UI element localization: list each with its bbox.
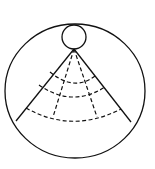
right-dashed-ray <box>74 49 97 117</box>
right-solid-ray <box>74 49 131 122</box>
dashed-arc-1 <box>50 72 95 83</box>
solid-boundary-rays <box>16 49 131 122</box>
dashed-arcs <box>26 72 121 121</box>
dashed-arc-3 <box>26 108 121 121</box>
left-dashed-ray <box>53 49 74 117</box>
outer-circle <box>5 24 145 158</box>
dashed-arc-2 <box>39 85 105 97</box>
small-circle <box>62 25 86 49</box>
fan-diagram <box>0 0 155 169</box>
left-solid-ray <box>16 49 74 121</box>
